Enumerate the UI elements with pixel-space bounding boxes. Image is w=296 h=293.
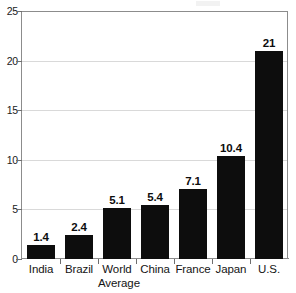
x-axis-tick-mark [60, 259, 61, 264]
x-axis-category-label: U.S. [250, 262, 288, 276]
x-axis-tick-mark [212, 259, 213, 264]
bar-value-label: 7.1 [171, 175, 214, 187]
bar [179, 189, 206, 259]
x-axis-category-line: China [140, 263, 170, 275]
bar-chart: 0510152025 1.42.45.15.47.110.421 IndiaBr… [0, 0, 296, 293]
x-axis-labels: IndiaBrazilWorldAverageChinaFranceJapanU… [22, 259, 288, 293]
x-axis-tick-mark [174, 259, 175, 264]
y-axis-tick-labels: 0510152025 [0, 0, 18, 293]
bar [255, 51, 282, 259]
x-axis-category-line: Japan [216, 263, 247, 275]
x-axis-category-label: India [22, 262, 60, 276]
bar-value-label: 2.4 [57, 221, 100, 233]
bar-group: 5.4 [141, 11, 168, 259]
x-axis-tick-mark [250, 259, 251, 264]
bar-group: 1.4 [27, 11, 54, 259]
x-axis-category-line: World [102, 263, 131, 275]
x-axis-tick-mark [136, 259, 137, 264]
bar [141, 205, 168, 259]
bar-value-label: 5.4 [133, 191, 176, 203]
bar-group: 5.1 [103, 11, 130, 259]
bar-value-label: 5.1 [95, 194, 138, 206]
bars-layer: 1.42.45.15.47.110.421 [22, 11, 288, 259]
x-axis-category-label: China [136, 262, 174, 276]
x-axis-category-label: WorldAverage [98, 262, 136, 290]
bar [103, 208, 130, 259]
bar-group: 10.4 [217, 11, 244, 259]
bar [65, 235, 92, 259]
x-axis-tick-mark [98, 259, 99, 264]
bar-value-label: 21 [247, 37, 290, 49]
bar-group: 7.1 [179, 11, 206, 259]
bar [27, 245, 54, 259]
bar-value-label: 1.4 [19, 231, 62, 243]
scan-artifact [196, 1, 220, 6]
x-axis-category-label: France [174, 262, 212, 276]
x-axis-category-label: Brazil [60, 262, 98, 276]
x-axis-category-line: Average [98, 276, 136, 290]
bar-value-label: 10.4 [209, 142, 252, 154]
x-axis-category-line: India [29, 263, 53, 275]
bar-group: 2.4 [65, 11, 92, 259]
bar [217, 156, 244, 259]
bar-group: 21 [255, 11, 282, 259]
x-axis-category-line: U.S. [258, 263, 280, 275]
x-axis-category-line: Brazil [65, 263, 93, 275]
x-axis-category-line: France [175, 263, 210, 275]
x-axis-category-label: Japan [212, 262, 250, 276]
